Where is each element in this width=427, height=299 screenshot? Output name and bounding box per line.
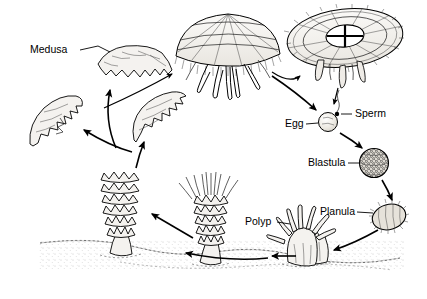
life-cycle-diagram: Medusa Egg Sperm Blastula Planula Polyp bbox=[0, 0, 427, 299]
sperm-tail bbox=[337, 90, 339, 112]
leader-egg bbox=[306, 123, 318, 124]
egg-cell bbox=[319, 113, 338, 132]
strobila-crown-tentacles bbox=[179, 172, 238, 199]
stage-medusa-swimming bbox=[98, 46, 172, 77]
arrow-ephyra-to-juvenile bbox=[84, 130, 132, 152]
arrow-blastula-to-planula bbox=[382, 180, 392, 200]
stage-medusa-side bbox=[175, 14, 281, 100]
strobila-discs bbox=[194, 195, 228, 246]
stage-medusa-top bbox=[284, 3, 406, 88]
stage-blastula bbox=[360, 149, 389, 178]
leader-planula bbox=[357, 212, 373, 213]
label-egg: Egg bbox=[285, 117, 304, 129]
arrow-strobila-to-strobila-left bbox=[152, 214, 193, 238]
leader-medusa bbox=[80, 46, 110, 52]
label-sperm: Sperm bbox=[355, 107, 386, 119]
stage-juvenile-medusa bbox=[30, 96, 83, 146]
label-polyp: Polyp bbox=[245, 215, 271, 227]
arrow-egg-to-blastula bbox=[340, 133, 362, 148]
sperm-head bbox=[335, 112, 339, 116]
blastula-sphere bbox=[360, 149, 389, 178]
arrow-strobila-to-ephyra bbox=[136, 142, 144, 168]
arrow-ephyra-to-medusa bbox=[108, 90, 116, 148]
strobila-left-discs bbox=[101, 172, 139, 238]
arrow-medusa-to-egg bbox=[272, 76, 316, 110]
label-blastula: Blastula bbox=[308, 156, 346, 168]
stage-planula bbox=[369, 199, 409, 234]
label-planula: Planula bbox=[320, 205, 355, 217]
label-medusa: Medusa bbox=[30, 43, 68, 55]
diagram-canvas: Medusa Egg Sperm Blastula Planula Polyp bbox=[0, 0, 427, 299]
stage-ephyra bbox=[133, 92, 186, 142]
stage-egg bbox=[319, 113, 338, 132]
